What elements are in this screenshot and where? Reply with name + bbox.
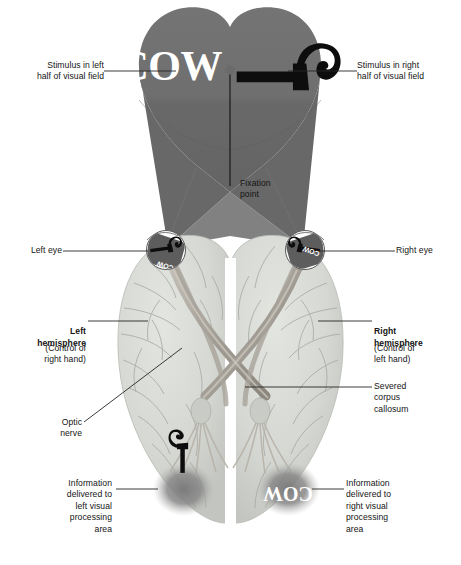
label-left-hemisphere-sub: (Control of right hand) xyxy=(10,343,86,366)
label-stimulus-right: Stimulus in right half of visual field xyxy=(357,60,455,83)
label-stimulus-left: Stimulus in left half of visual field xyxy=(12,60,104,83)
label-left-eye: Left eye xyxy=(8,245,62,256)
diagram-canvas: COW xyxy=(0,0,461,565)
label-right-hemisphere-sub: (Control of left hand) xyxy=(374,343,458,366)
right-lateral-geniculate xyxy=(250,398,270,424)
label-right-eye: Right eye xyxy=(396,245,456,256)
right-cortex-word: COW xyxy=(263,483,313,505)
label-severed-corpus-callosum: Severed corpus callosum xyxy=(374,381,446,415)
stimulus-word-cow: COW xyxy=(119,43,223,89)
label-fixation-point: Fixation point xyxy=(240,178,300,201)
label-info-right: Information delivered to right visual pr… xyxy=(346,478,450,535)
right-visual-processing-area: COW xyxy=(256,462,320,516)
label-optic-nerve: Optic nerve xyxy=(26,417,82,440)
label-info-left: Information delivered to left visual pro… xyxy=(12,478,112,535)
left-lateral-geniculate xyxy=(191,398,211,424)
